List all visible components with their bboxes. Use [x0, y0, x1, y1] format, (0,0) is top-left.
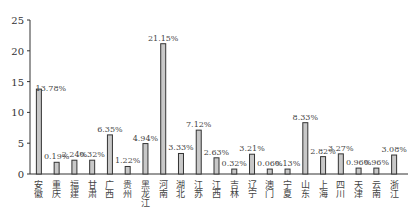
- value-label: 13.78%: [36, 84, 67, 93]
- category-label: 河南: [158, 179, 168, 198]
- category-label: 江西: [212, 180, 222, 199]
- bar: [178, 153, 183, 174]
- bar: [54, 162, 59, 174]
- value-label: 4.94%: [133, 134, 159, 143]
- bar: [321, 157, 326, 174]
- value-label: 0.32%: [222, 159, 248, 168]
- category-label: 上海: [318, 180, 328, 199]
- bar-chart: 0510152025 13.78%安徽0.19%重庆2.24%福建0.32%甘肃…: [0, 0, 415, 212]
- y-tick-label: 10: [11, 107, 24, 118]
- category-label: 江苏: [194, 180, 204, 199]
- y-tick-label: 15: [11, 77, 24, 88]
- value-label: 0.32%: [79, 150, 105, 159]
- category-label: 重庆: [52, 179, 62, 199]
- bar: [285, 169, 290, 174]
- category-label: 山东: [300, 180, 310, 198]
- y-tick-label: 5: [18, 138, 24, 149]
- category-label: 安徽: [34, 179, 44, 199]
- bar: [36, 89, 41, 174]
- value-label: 8.33%: [293, 113, 319, 122]
- category-label: 浙江: [389, 179, 399, 199]
- y-tick-label: 20: [11, 46, 24, 57]
- bar: [196, 130, 201, 174]
- category-label: 四川: [336, 180, 346, 198]
- category-label: 广西: [105, 179, 115, 199]
- bar: [125, 166, 130, 174]
- value-label: 1.22%: [115, 156, 141, 165]
- category-label: 天津: [354, 180, 364, 199]
- value-label: 3.33%: [168, 143, 194, 152]
- category-label: 福建: [69, 179, 79, 199]
- bar: [338, 154, 343, 174]
- value-label: 0.96%: [364, 158, 390, 167]
- category-label: 贵州: [123, 179, 133, 198]
- bar: [143, 144, 148, 174]
- value-label: 7.12%: [186, 120, 212, 129]
- value-label: 2.63%: [204, 148, 230, 157]
- category-label: 吉林: [229, 180, 239, 199]
- category-label: 甘肃: [87, 179, 97, 199]
- bar: [72, 160, 77, 174]
- category-label: 云南: [371, 180, 381, 198]
- value-label: 0.13%: [275, 159, 301, 168]
- bar: [356, 168, 361, 174]
- category-label: 宁夏: [283, 179, 293, 198]
- bar: [374, 168, 379, 174]
- bar: [303, 123, 308, 174]
- bar: [392, 155, 397, 174]
- value-label: 3.08%: [381, 145, 407, 154]
- category-label: 澳门: [265, 179, 275, 199]
- bar: [107, 135, 112, 174]
- category-label: 黑龙江: [140, 180, 150, 208]
- y-tick-label: 25: [11, 15, 24, 26]
- value-label: 6.35%: [97, 125, 123, 134]
- value-label: 21.15%: [148, 34, 179, 43]
- bar: [161, 44, 166, 174]
- value-label: 3.21%: [239, 144, 265, 153]
- bar: [214, 158, 219, 174]
- bar: [267, 169, 272, 174]
- bar: [232, 169, 237, 174]
- value-label: 3.27%: [328, 144, 354, 153]
- bars: 13.78%安徽0.19%重庆2.24%福建0.32%甘肃6.35%广西1.22…: [34, 34, 407, 208]
- bar: [90, 160, 95, 174]
- category-label: 湖北: [176, 180, 186, 199]
- y-tick-label: 0: [18, 169, 24, 180]
- bar: [250, 154, 255, 174]
- category-label: 辽宁: [247, 180, 257, 198]
